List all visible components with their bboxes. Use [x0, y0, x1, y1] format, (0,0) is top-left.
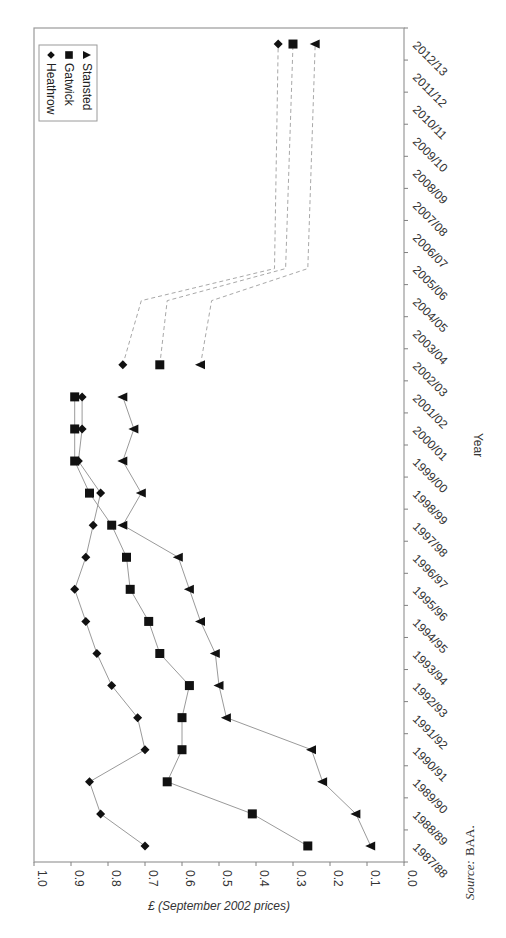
gatwick-square-marker-icon	[178, 713, 187, 722]
gatwick-square-marker-icon	[185, 681, 194, 690]
legend-label-stansted: Stansted	[80, 63, 94, 110]
plot-area	[34, 28, 404, 862]
value-tick-label: 0.0	[405, 870, 419, 887]
value-tick-label: 0.2	[331, 870, 345, 887]
gatwick-square-marker-icon	[163, 777, 172, 786]
value-tick-label: 0.5	[220, 870, 234, 887]
year-tick-label: 2011/12	[410, 70, 450, 110]
gatwick-square-marker-icon	[70, 392, 79, 401]
value-axis: 1.00.90.80.70.60.50.40.30.20.10.0	[34, 862, 419, 887]
value-tick-label: 0.7	[146, 870, 160, 887]
legend-label-heathrow: Heathrow	[44, 63, 58, 115]
gatwick-square-marker-icon	[126, 585, 135, 594]
value-tick-label: 0.3	[294, 870, 308, 887]
gatwick-square-marker-icon	[155, 360, 164, 369]
gatwick-square-marker-icon	[85, 489, 94, 498]
source-value: BAA.	[462, 825, 477, 856]
gatwick-square-marker-icon	[144, 617, 153, 626]
gatwick-square-marker-icon	[70, 424, 79, 433]
value-axis-title: £ (September 2002 prices)	[147, 899, 290, 913]
year-axis-title: Year	[471, 433, 485, 457]
gatwick-square-marker-icon	[289, 40, 298, 49]
legend-square-icon	[65, 51, 73, 59]
value-tick-label: 0.6	[183, 870, 197, 887]
value-tick-label: 0.4	[257, 870, 271, 887]
value-tick-label: 0.8	[109, 870, 123, 887]
gatwick-square-marker-icon	[248, 809, 257, 818]
value-tick-label: 0.9	[72, 870, 86, 887]
chart: 1.00.90.80.70.60.50.40.30.20.10.0 1987/8…	[0, 0, 506, 938]
gatwick-square-marker-icon	[122, 553, 131, 562]
value-tick-label: 0.1	[368, 870, 382, 887]
svg-text:Source:BAA.: Source:BAA.	[462, 825, 477, 900]
source-note: Source:BAA.	[462, 825, 477, 900]
value-tick-label: 1.0	[35, 870, 49, 887]
legend: HeathrowGatwickStansted	[39, 45, 97, 121]
gatwick-square-marker-icon	[178, 745, 187, 754]
gatwick-square-marker-icon	[303, 841, 312, 850]
gatwick-square-marker-icon	[155, 649, 164, 658]
source-label: Source:	[462, 860, 477, 900]
year-tick-label: 2010/11	[410, 102, 450, 142]
gatwick-square-marker-icon	[107, 521, 116, 530]
gatwick-square-marker-icon	[70, 457, 79, 466]
legend-label-gatwick: Gatwick	[62, 63, 76, 107]
year-axis: 1987/881988/891989/901990/911991/921992/…	[404, 28, 451, 881]
